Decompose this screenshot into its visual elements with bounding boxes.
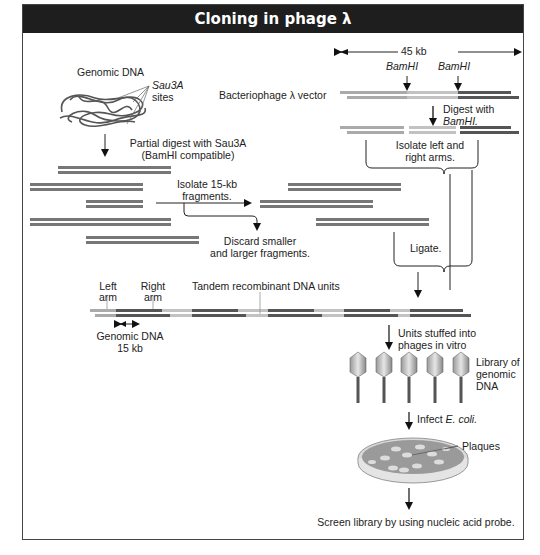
size-arrow — [340, 49, 520, 55]
sau3a-label: Sau3A — [152, 79, 184, 92]
vector-label: Bacteriophage λ vector — [219, 89, 326, 102]
digest-label-1: Digest with — [443, 103, 494, 116]
genomic-dna-label: Genomic DNA — [77, 66, 144, 79]
digested-fragments — [340, 126, 519, 134]
phage-library — [350, 352, 469, 403]
ligate-label: Ligate. — [410, 242, 442, 255]
genomic-dna-tangle — [60, 95, 145, 126]
bamhi-label-1: BamHI — [386, 60, 418, 73]
library-label-2: genomic — [476, 368, 516, 381]
sites-label: sites — [152, 91, 174, 104]
left-arm-label-2: arm — [96, 291, 120, 304]
lambda-vector-dna — [340, 91, 519, 99]
size-label: 45 kb — [399, 45, 429, 58]
isolate-arms-label-1: Isolate left and — [380, 139, 480, 152]
isolate-arms-label-2: right arms. — [380, 151, 480, 164]
partial-digest-label-1: Partial digest with Sau3A — [118, 137, 258, 150]
stuffed-label-1: Units stuffed into — [398, 327, 476, 340]
stuffed-label-2: phages in vitro — [398, 339, 466, 352]
screen-library-label: Screen library by using nucleic acid pro… — [256, 516, 540, 529]
infect-label: Infect E. coli. — [417, 413, 477, 426]
tandem-units-label: Tandem recombinant DNA units — [192, 280, 340, 293]
diagram-artwork — [0, 0, 540, 555]
discard-arrow — [184, 203, 257, 229]
infect-organism: E. coli. — [446, 413, 478, 425]
genomic-15kb-label-2: 15 kb — [90, 342, 170, 355]
partial-digest-label-2: (BamHI compatible) — [118, 149, 258, 162]
genomic-15kb-label-1: Genomic DNA — [90, 330, 170, 343]
digest-label-2: BamHI. — [443, 115, 478, 128]
right-arm-label-2: arm — [137, 291, 169, 304]
discard-label-2: and larger fragments. — [205, 247, 315, 260]
isolate-15kb-label-2: fragments. — [172, 190, 242, 203]
concatemer-dna — [90, 309, 471, 317]
selected-fragments — [260, 183, 429, 226]
isolate-15kb-label-1: Isolate 15-kb — [172, 178, 242, 191]
library-label-3: DNA — [476, 380, 498, 393]
plaques-label: Plaques — [462, 440, 500, 453]
library-label-1: Library of — [476, 356, 520, 369]
bamhi-label-2: BamHI — [438, 60, 470, 73]
discard-label-1: Discard smaller — [205, 235, 315, 248]
petri-plate — [358, 438, 468, 483]
infect-prefix: Infect — [417, 413, 446, 425]
